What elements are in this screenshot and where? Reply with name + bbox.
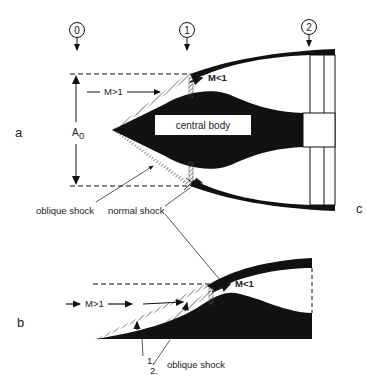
station-2-label: 2 — [306, 22, 312, 33]
shock-2-label: 2. — [150, 365, 158, 376]
station-1-marker: 1 — [180, 23, 195, 51]
ramp-b — [95, 293, 312, 339]
leader-normal-shock-b — [165, 214, 220, 280]
normal-shock-b — [209, 288, 213, 304]
oblique-shock-label-a: oblique shock — [36, 205, 94, 216]
station-0-label: 0 — [74, 25, 80, 36]
station-2-marker: 2 — [302, 20, 317, 47]
capture-area-label: A 0 — [72, 127, 84, 141]
mach-supersonic-label-b: M>1 — [85, 298, 104, 309]
station-0-marker: 0 — [70, 23, 85, 51]
normal-shock-bottom — [189, 162, 193, 182]
mach-subsonic-label-a: M<1 — [208, 72, 227, 83]
central-body-label: central body — [176, 120, 230, 131]
panel-c-label: c — [356, 201, 363, 216]
svg-text:A: A — [72, 127, 79, 138]
leader-normal-shock — [165, 188, 190, 206]
mach-supersonic-label-a: M>1 — [104, 86, 123, 97]
cowl-b — [207, 258, 312, 291]
panel-b-label: b — [17, 315, 24, 330]
normal-shock-label: normal shock — [108, 205, 165, 216]
station-1-label: 1 — [184, 25, 190, 36]
mach-subsonic-label-b: M<1 — [235, 278, 254, 289]
svg-text:0: 0 — [79, 130, 84, 141]
leader-oblique-shock-a — [96, 166, 153, 202]
engine-hub — [303, 113, 335, 147]
inlet-diagram: 0 1 2 a A 0 M>1 central body — [0, 0, 367, 392]
oblique-shock-label-b: oblique shock — [167, 359, 225, 370]
panel-a-label: a — [15, 125, 23, 140]
